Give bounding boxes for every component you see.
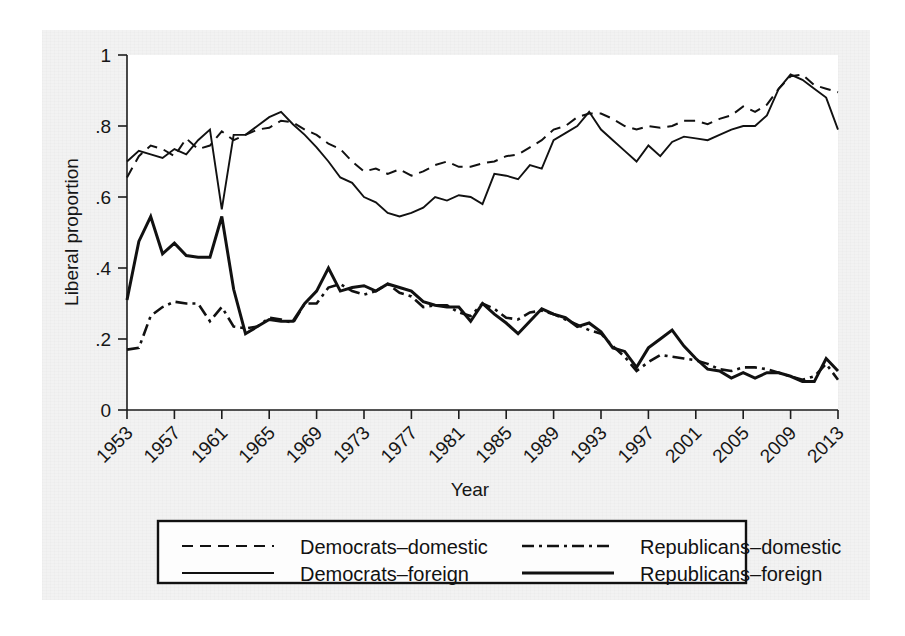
- x-tick-label: 2009: [756, 422, 801, 467]
- x-axis-ticks: [127, 410, 838, 419]
- x-tick-label: 1997: [613, 422, 658, 467]
- x-tick-label: 1969: [282, 422, 327, 467]
- y-tick-label: 1: [100, 45, 111, 66]
- y-axis-ticks: [118, 55, 127, 410]
- y-tick-label: .6: [95, 187, 111, 208]
- x-tick-label: 1957: [139, 422, 184, 467]
- x-tick-label: 1993: [566, 422, 611, 467]
- x-tick-label: 1981: [424, 422, 469, 467]
- x-tick-label: 1977: [376, 422, 421, 467]
- x-axis-tick-labels: 1953195719611965196919731977198119851989…: [92, 422, 848, 467]
- legend-label-republicans-foreign: Republicans–foreign: [640, 563, 822, 585]
- x-axis: 1953195719611965196919731977198119851989…: [92, 410, 848, 500]
- plot-area-background: [127, 55, 838, 410]
- x-axis-title: Year: [451, 479, 490, 500]
- y-axis-tick-labels: 0.2.4.6.81: [95, 45, 111, 421]
- chart-figure: 0.2.4.6.81 Liberal proportion 1953195719…: [0, 0, 905, 636]
- legend-label-democrats-domestic: Democrats–domestic: [300, 536, 488, 558]
- x-tick-label: 2005: [708, 422, 753, 467]
- x-tick-label: 2013: [803, 422, 848, 467]
- x-tick-label: 2001: [661, 422, 706, 467]
- x-tick-label: 1973: [329, 422, 374, 467]
- x-tick-label: 1985: [471, 422, 516, 467]
- x-tick-label: 1953: [92, 422, 137, 467]
- legend-label-republicans-domestic: Republicans–domestic: [640, 536, 841, 558]
- y-tick-label: 0: [100, 400, 111, 421]
- x-tick-label: 1961: [187, 422, 232, 467]
- y-tick-label: .8: [95, 116, 111, 137]
- y-tick-label: .2: [95, 329, 111, 350]
- legend-label-democrats-foreign: Democrats–foreign: [300, 563, 469, 585]
- chart-legend: Democrats–domesticDemocrats–foreignRepub…: [158, 521, 841, 585]
- y-tick-label: .4: [95, 258, 111, 279]
- x-tick-label: 1989: [519, 422, 564, 467]
- x-tick-label: 1965: [234, 422, 279, 467]
- y-axis-title: Liberal proportion: [61, 158, 82, 306]
- y-axis: 0.2.4.6.81 Liberal proportion: [61, 45, 127, 421]
- chart-svg: 0.2.4.6.81 Liberal proportion 1953195719…: [0, 0, 905, 636]
